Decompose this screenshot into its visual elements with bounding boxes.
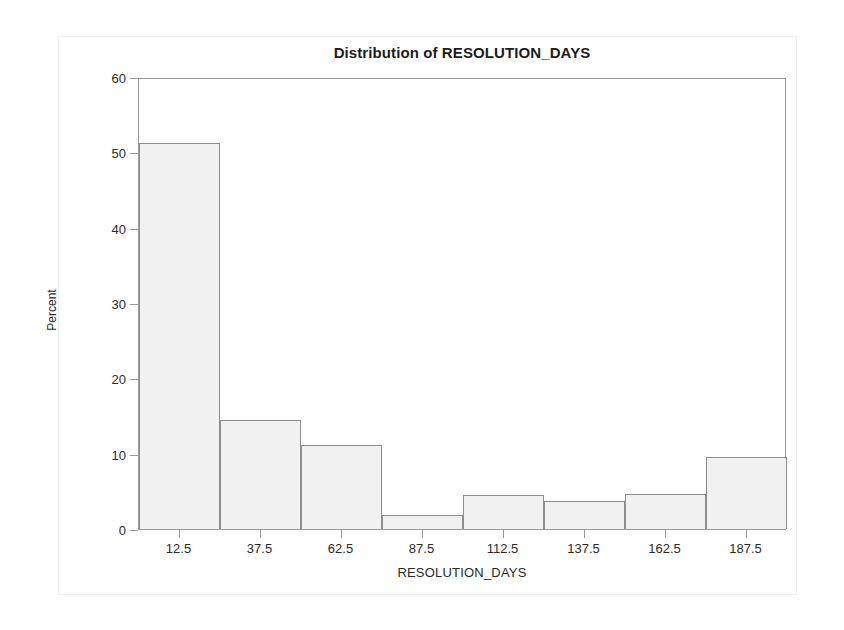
y-axis-tick-label: 0 (78, 523, 126, 538)
y-axis-tick-label: 10 (78, 447, 126, 462)
chart-title: Distribution of RESOLUTION_DAYS (138, 44, 786, 61)
y-axis-tick (130, 530, 138, 531)
y-axis-tick (130, 304, 138, 305)
x-axis-tick (503, 530, 504, 538)
histogram-bar (301, 445, 382, 529)
plot-area (138, 78, 786, 530)
y-axis-tick-label: 40 (78, 221, 126, 236)
y-axis-tick (130, 153, 138, 154)
histogram-bar (139, 143, 220, 529)
x-axis-tick-label: 112.5 (487, 541, 519, 556)
x-axis-tick-label: 162.5 (648, 541, 681, 556)
plot-inner (139, 79, 785, 529)
histogram-bar (463, 495, 544, 529)
x-axis-tick (665, 530, 666, 538)
x-axis-tick-label: 37.5 (247, 541, 272, 556)
x-axis-tick (746, 530, 747, 538)
y-axis-tick (130, 78, 138, 79)
y-axis-tick-label: 30 (78, 297, 126, 312)
x-axis-tick (341, 530, 342, 538)
x-axis-tick-label: 62.5 (328, 541, 353, 556)
histogram-bar (544, 501, 625, 529)
x-axis-tick-label: 12.5 (166, 541, 191, 556)
histogram-bar (706, 457, 787, 529)
y-axis-tick (130, 379, 138, 380)
x-axis-tick-label: 137.5 (567, 541, 600, 556)
histogram-bar (220, 420, 301, 529)
y-axis-tick-label: 60 (78, 71, 126, 86)
x-axis-tick-label: 187.5 (729, 541, 762, 556)
y-axis-tick-label: 50 (78, 146, 126, 161)
y-axis-tick (130, 229, 138, 230)
x-axis-tick (260, 530, 261, 538)
x-axis-tick-label: 87.5 (409, 541, 434, 556)
x-axis-tick (422, 530, 423, 538)
x-axis-tick (179, 530, 180, 538)
histogram-bar (382, 515, 463, 529)
histogram-figure: Distribution of RESOLUTION_DAYS 01020304… (0, 0, 844, 630)
x-axis-title: RESOLUTION_DAYS (138, 565, 786, 580)
x-axis-tick (584, 530, 585, 538)
histogram-bar (625, 494, 706, 529)
y-axis-tick-label: 20 (78, 372, 126, 387)
bars-layer (139, 79, 785, 529)
y-axis-tick (130, 455, 138, 456)
y-axis-title: Percent (45, 289, 59, 330)
